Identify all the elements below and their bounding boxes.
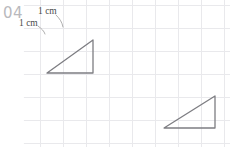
unit-label-top: 1 cm [38, 6, 57, 16]
leader-line-left [38, 26, 45, 34]
unit-label-left: 1 cm [19, 18, 38, 28]
triangle-upper-left [47, 40, 93, 73]
leader-line-top [56, 15, 63, 27]
triangle-lower-right [164, 96, 215, 128]
worksheet-page: 04 1 cm 1 cm [0, 0, 230, 147]
